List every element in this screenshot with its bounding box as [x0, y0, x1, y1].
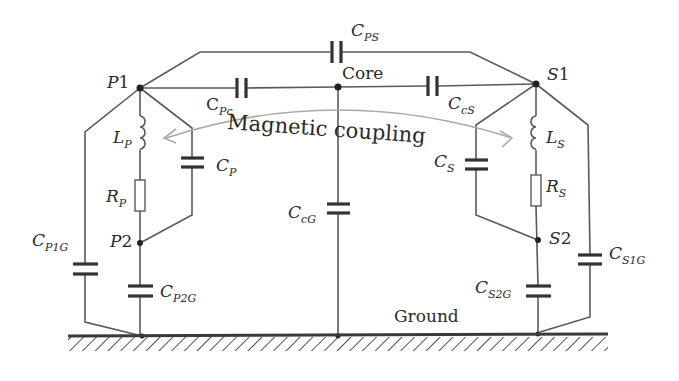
- node-s1-dot: [533, 81, 540, 88]
- label-cs1g: CS1G: [609, 245, 645, 262]
- label-ls: LS: [546, 129, 565, 146]
- wire-cps: [140, 52, 330, 88]
- node-p1-dot: [137, 85, 144, 92]
- label-rs: RS: [546, 178, 566, 195]
- resistor-rp-icon: [135, 180, 145, 211]
- label-ccs: CcS: [448, 95, 475, 112]
- label-lp: LP: [113, 129, 132, 146]
- label-cps: CPS: [351, 22, 379, 39]
- label-s1: S1: [547, 66, 569, 83]
- node-core-dot: [335, 84, 342, 91]
- label-p1: P1: [107, 74, 129, 91]
- inductor-lp-icon: [140, 116, 145, 149]
- label-core: Core: [342, 65, 383, 82]
- node-p2-dot: [137, 240, 143, 246]
- label-cp: CP: [216, 157, 236, 174]
- resistor-rs-icon: [531, 175, 541, 206]
- label-cs: CS: [434, 153, 455, 170]
- label-rp: RP: [106, 188, 126, 205]
- label-p2: P2: [110, 233, 132, 250]
- inductor-ls-icon: [531, 116, 536, 149]
- label-cp2g: CP2G: [160, 283, 196, 300]
- label-cs2g: CS2G: [475, 279, 511, 296]
- label-ccg: CcG: [288, 204, 316, 221]
- label-ground: Ground: [394, 308, 459, 325]
- label-cp1g: CP1G: [32, 232, 68, 249]
- circuit-diagram: [0, 0, 679, 381]
- node-s2-dot: [535, 237, 541, 243]
- label-s2: S2: [549, 230, 571, 247]
